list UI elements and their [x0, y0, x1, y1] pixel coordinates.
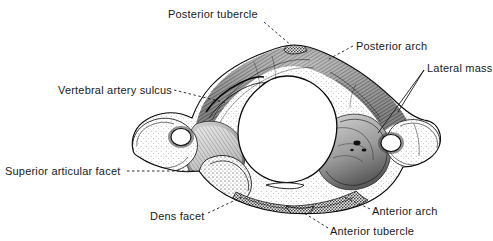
leader-posterior-tubercle: [264, 22, 292, 46]
label-vertebral-artery-sulcus: Vertebral artery sulcus: [58, 84, 172, 96]
label-dens-facet: Dens facet: [150, 210, 205, 222]
anatomical-figure: Posterior tubercle Posterior arch Latera…: [0, 0, 493, 241]
label-posterior-tubercle: Posterior tubercle: [168, 8, 258, 20]
leader-anterior-tubercle: [304, 213, 328, 228]
leader-lateral-mass-lower: [378, 70, 424, 133]
label-lateral-mass: Lateral mass: [427, 62, 492, 74]
label-superior-articular-facet: Superior articular facet: [5, 165, 120, 177]
leader-vertebral-artery-sulcus: [174, 90, 227, 103]
label-posterior-arch: Posterior arch: [356, 40, 427, 52]
leader-lateral-mass-upper: [398, 70, 424, 112]
leader-posterior-arch: [327, 46, 353, 60]
leader-dens-facet: [208, 196, 244, 213]
label-anterior-arch: Anterior arch: [372, 205, 438, 217]
leader-anterior-arch: [342, 196, 370, 209]
label-anterior-tubercle: Anterior tubercle: [330, 225, 414, 237]
